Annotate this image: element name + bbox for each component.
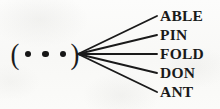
root-dot-3: [60, 51, 67, 58]
open-paren: (: [10, 40, 19, 69]
diagram-canvas: ( ) ABLE PIN FOLD DON ANT: [0, 0, 220, 109]
suffix-label-able: ABLE: [160, 8, 203, 24]
source-node: ( ): [10, 38, 80, 70]
dot-group: [25, 51, 67, 58]
suffix-label-ant: ANT: [160, 84, 193, 100]
branch-line-able: [78, 16, 157, 54]
branch-line-pin: [78, 35, 157, 54]
root-dot-1: [25, 51, 32, 58]
close-paren: ): [71, 40, 80, 69]
branch-line-ant: [78, 54, 157, 92]
suffix-label-fold: FOLD: [160, 46, 204, 62]
root-dot-2: [42, 51, 49, 58]
branch-line-don: [78, 54, 157, 73]
suffix-label-don: DON: [160, 65, 195, 81]
suffix-label-pin: PIN: [160, 27, 187, 43]
